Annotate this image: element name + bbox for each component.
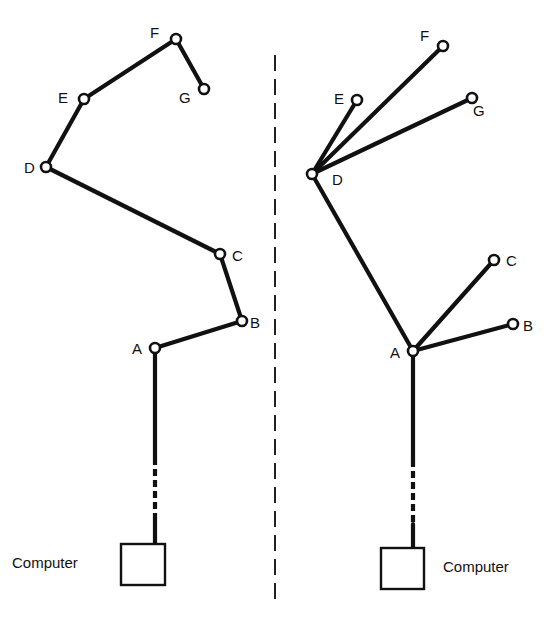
edge-e-f	[84, 39, 176, 99]
node-f	[438, 41, 448, 51]
node-label-f: F	[420, 27, 429, 44]
node-d	[307, 169, 317, 179]
node-label-g: G	[473, 102, 485, 119]
node-label-b: B	[250, 314, 260, 331]
edge-d-e	[46, 99, 84, 167]
node-a	[408, 346, 418, 356]
node-e	[79, 94, 89, 104]
node-label-e: E	[334, 90, 344, 107]
edge-d-f	[312, 46, 443, 174]
edge-a-b	[155, 321, 242, 348]
node-label-c: C	[506, 252, 517, 269]
node-c	[215, 249, 225, 259]
node-label-d: D	[24, 159, 35, 176]
node-label-e: E	[58, 89, 68, 106]
node-label-c: C	[232, 247, 243, 264]
computer-box	[381, 548, 424, 589]
node-label-g: G	[179, 89, 191, 106]
edge-f-g	[176, 39, 204, 89]
node-f	[171, 34, 181, 44]
node-label-a: A	[132, 340, 142, 357]
node-c	[489, 255, 499, 265]
edge-c-d	[46, 167, 220, 254]
node-g	[199, 84, 209, 94]
network-topology-diagram: ABCDEFGComputer ABCDEFGComputer	[0, 0, 548, 624]
node-e	[352, 95, 362, 105]
node-label-b: B	[523, 317, 533, 334]
computer-label: Computer	[12, 554, 78, 571]
edge-b-c	[220, 254, 242, 321]
edge-a-c	[413, 260, 494, 351]
computer-label: Computer	[443, 558, 509, 575]
node-label-d: D	[332, 171, 343, 188]
node-d	[41, 162, 51, 172]
node-b	[508, 319, 518, 329]
node-label-f: F	[150, 24, 159, 41]
edge-a-b	[413, 324, 513, 351]
computer-box	[121, 544, 165, 585]
node-a	[150, 343, 160, 353]
right-star-panel: ABCDEFGComputer	[307, 27, 533, 589]
edge-a-d	[312, 174, 413, 351]
node-b	[237, 316, 247, 326]
node-label-a: A	[390, 344, 400, 361]
left-chain-panel: ABCDEFGComputer	[12, 24, 260, 585]
